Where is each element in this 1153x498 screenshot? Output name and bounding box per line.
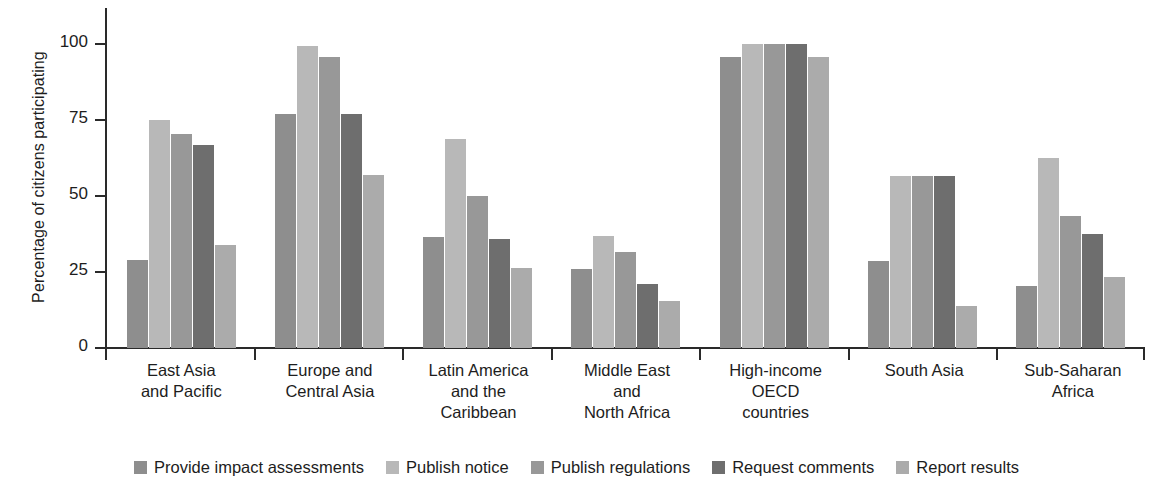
bar bbox=[445, 139, 466, 348]
legend-label: Provide impact assessments bbox=[154, 458, 364, 477]
bar bbox=[786, 44, 807, 348]
bar bbox=[764, 44, 785, 348]
y-axis-tick: 0 bbox=[95, 347, 105, 349]
bar-group bbox=[700, 8, 848, 348]
y-axis-tick-label: 75 bbox=[69, 107, 88, 129]
category-tick bbox=[551, 349, 553, 360]
category-tick bbox=[402, 349, 404, 360]
legend-swatch bbox=[896, 461, 909, 474]
category-label-line: Central Asia bbox=[258, 381, 403, 402]
bar bbox=[1082, 234, 1103, 348]
bar-group bbox=[255, 8, 403, 348]
category-label: High-incomeOECDcountries bbox=[701, 360, 850, 445]
bar-group bbox=[552, 8, 700, 348]
category-label: Latin Americaand theCaribbean bbox=[404, 360, 553, 445]
bar-group bbox=[107, 8, 255, 348]
category-label-line: countries bbox=[703, 402, 848, 423]
legend-label: Publish notice bbox=[406, 458, 509, 477]
category-label: Europe andCentral Asia bbox=[256, 360, 405, 445]
category-label-line: Caribbean bbox=[406, 402, 551, 423]
bar bbox=[1104, 277, 1125, 348]
y-axis-tick: 75 bbox=[95, 119, 105, 121]
bar-groups bbox=[107, 8, 1145, 348]
bar bbox=[341, 114, 362, 348]
bar bbox=[742, 44, 763, 348]
category-tick bbox=[105, 349, 107, 360]
bar bbox=[571, 269, 592, 348]
legend-swatch bbox=[531, 461, 544, 474]
bar bbox=[934, 176, 955, 348]
legend-item[interactable]: Publish notice bbox=[386, 458, 509, 477]
bar bbox=[127, 260, 148, 348]
category-label: East Asiaand Pacific bbox=[107, 360, 256, 445]
category-label-line: and Pacific bbox=[109, 381, 254, 402]
category-label: Sub-SaharanAfrica bbox=[998, 360, 1147, 445]
bar bbox=[808, 57, 829, 348]
bar-chart: Percentage of citizens participating 025… bbox=[0, 0, 1153, 498]
y-axis-title: Percentage of citizens participating bbox=[26, 2, 52, 352]
category-label-line: East Asia bbox=[109, 360, 254, 381]
bar-group bbox=[997, 8, 1145, 348]
bar bbox=[297, 46, 318, 348]
category-label-line: and the bbox=[406, 381, 551, 402]
y-axis-tick-label: 50 bbox=[69, 183, 88, 205]
legend-label: Request comments bbox=[732, 458, 874, 477]
category-label-line: Middle East bbox=[555, 360, 700, 381]
y-axis-tick: 25 bbox=[95, 271, 105, 273]
plot-area: 0255075100 bbox=[105, 8, 1145, 348]
category-ticks bbox=[105, 349, 1145, 360]
category-label: Middle EastandNorth Africa bbox=[553, 360, 702, 445]
bar bbox=[1016, 286, 1037, 348]
bar bbox=[275, 114, 296, 348]
category-label: South Asia bbox=[850, 360, 999, 445]
legend-item[interactable]: Provide impact assessments bbox=[134, 458, 364, 477]
bar bbox=[319, 57, 340, 348]
bar bbox=[489, 239, 510, 348]
category-label-line: Africa bbox=[1000, 381, 1145, 402]
category-label-line: OECD bbox=[703, 381, 848, 402]
bar bbox=[215, 245, 236, 348]
bar bbox=[193, 145, 214, 348]
category-tick bbox=[996, 349, 998, 360]
legend-item[interactable]: Publish regulations bbox=[531, 458, 690, 477]
legend-swatch bbox=[134, 461, 147, 474]
bar bbox=[912, 176, 933, 348]
legend-label: Publish regulations bbox=[551, 458, 690, 477]
bar bbox=[1038, 158, 1059, 348]
y-axis-tick-label: 0 bbox=[79, 335, 88, 357]
bar bbox=[868, 261, 889, 348]
category-tick bbox=[1143, 349, 1145, 360]
bar bbox=[890, 176, 911, 348]
legend-label: Report results bbox=[916, 458, 1019, 477]
bar bbox=[149, 120, 170, 348]
legend-item[interactable]: Request comments bbox=[712, 458, 874, 477]
bar bbox=[720, 57, 741, 348]
bar bbox=[615, 252, 636, 348]
bar bbox=[637, 284, 658, 348]
legend-item[interactable]: Report results bbox=[896, 458, 1019, 477]
category-label-line: and bbox=[555, 381, 700, 402]
category-label-line: South Asia bbox=[852, 360, 997, 381]
category-label-line: Europe and bbox=[258, 360, 403, 381]
y-axis-tick-label: 25 bbox=[69, 259, 88, 281]
legend-swatch bbox=[712, 461, 725, 474]
category-label-line: Latin America bbox=[406, 360, 551, 381]
category-tick bbox=[254, 349, 256, 360]
bar bbox=[593, 236, 614, 348]
bar bbox=[467, 196, 488, 348]
bar bbox=[956, 306, 977, 349]
bar-group bbox=[404, 8, 552, 348]
bar bbox=[363, 175, 384, 348]
category-label-line: Sub-Saharan bbox=[1000, 360, 1145, 381]
bar bbox=[1060, 216, 1081, 348]
category-label-line: North Africa bbox=[555, 402, 700, 423]
bar bbox=[659, 301, 680, 348]
legend-swatch bbox=[386, 461, 399, 474]
y-axis-tick: 100 bbox=[95, 43, 105, 45]
category-labels: East Asiaand PacificEurope andCentral As… bbox=[107, 360, 1147, 445]
chart-legend: Provide impact assessmentsPublish notice… bbox=[0, 458, 1153, 477]
category-tick bbox=[699, 349, 701, 360]
bar bbox=[511, 268, 532, 348]
y-axis-tick-label: 100 bbox=[60, 31, 88, 53]
bar-group bbox=[848, 8, 996, 348]
